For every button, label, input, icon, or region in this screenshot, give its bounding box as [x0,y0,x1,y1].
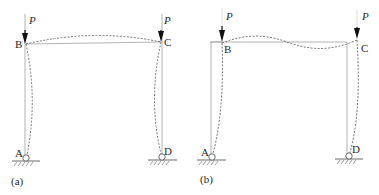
column-cd-deformed [349,40,358,156]
load-arrow-b-b [219,26,225,42]
pin-icon [209,154,215,160]
panel-caption-a: (a) [11,175,24,188]
pin-support-d-a [148,154,177,165]
node-label-a-a: A [15,147,23,159]
node-label-d-a: D [164,145,172,157]
node-label-d-b: D [352,143,360,155]
panel-caption-b: (b) [200,173,213,186]
load-label-p-c-a: P [163,14,171,26]
node-label-b-b: B [224,43,231,55]
deformed-shape-a [26,35,161,155]
column-ab-deformed [212,43,223,157]
pin-icon [346,153,352,159]
portal-frame-buckling-figure: P P B C A D [0,0,379,195]
undeformed-frame-b [210,42,347,154]
load-arrow-c-b [354,27,360,39]
panel-b: P P B C A D [197,8,369,186]
panel-a: P P B C A D [11,14,177,188]
load-arrow-b-a [22,30,28,44]
arrowhead-icon [219,30,225,42]
arrowhead-icon [22,33,28,44]
arrowhead-icon [354,28,360,39]
node-label-c-b: C [361,42,368,54]
pin-icon [159,154,165,160]
deformed-shape-b [212,36,358,157]
node-label-a-b: A [201,146,209,158]
pin-icon [23,155,29,161]
beam-bc-original [26,42,161,44]
load-label-p-b-b: P [225,10,233,22]
node-label-b-a: B [15,38,22,50]
column-cd-deformed [155,42,162,154]
node-label-c-a: C [164,36,171,48]
load-label-p-b-a: P [28,14,36,26]
column-ab-deformed [26,44,32,155]
load-label-p-c-b: P [361,10,369,22]
